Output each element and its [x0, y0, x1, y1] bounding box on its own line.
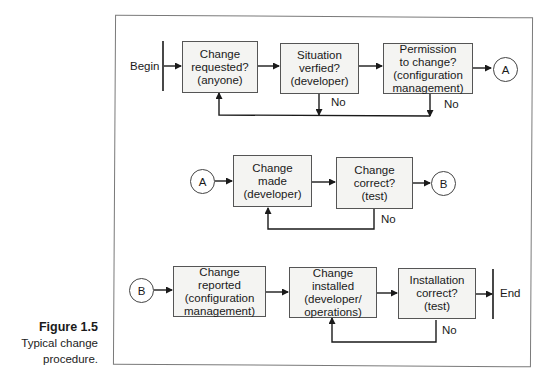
step-permission-to-change: Permission to change? (configuration man… [383, 43, 473, 94]
step-change-reported: Change reported (configuration managemen… [173, 266, 266, 317]
connector-label: A [199, 176, 207, 188]
caption-line-2: procedure. [21, 351, 98, 367]
step-installation-correct: Installation correct? (test) [398, 268, 476, 319]
connector-a-out: A [493, 57, 518, 82]
step-change-correct: Change correct? (test) [336, 157, 413, 209]
figure-number: Figure 1.5 [21, 320, 98, 335]
step-change-installed: Change installed (developer/ operations) [289, 267, 377, 318]
step-label: Change installed (developer/ operations) [304, 267, 362, 319]
caption-line-1: Typical change [21, 335, 98, 351]
no-label: No [381, 213, 396, 226]
step-label: Installation correct? (test) [410, 274, 465, 313]
step-change-requested: Change requested? (anyone) [182, 41, 258, 93]
connector-label: B [138, 285, 146, 297]
begin-label: Begin [130, 60, 159, 73]
no-label: No [444, 98, 459, 111]
step-label: Change requested? (anyone) [191, 48, 249, 87]
connector-a-in: A [190, 169, 215, 194]
figure-caption: Figure 1.5 Typical change procedure. [21, 320, 98, 367]
step-label: Situation verfied? (developer) [290, 49, 348, 88]
end-label: End [500, 287, 520, 300]
connector-label: A [502, 64, 510, 76]
connector-label: B [440, 178, 448, 190]
step-label: Change reported (configuration managemen… [184, 266, 255, 318]
no-label: No [331, 96, 346, 109]
step-label: Change correct? (test) [354, 164, 396, 203]
step-label: Change made (developer) [243, 162, 301, 201]
connector-b-out: B [431, 171, 456, 196]
connector-b-in: B [129, 278, 154, 303]
no-label: No [442, 324, 457, 337]
change-procedure-figure: Begin Change requested? (anyone) Situati… [0, 0, 559, 389]
step-label: Permission to change? (configuration man… [393, 43, 464, 95]
step-situation-verified: Situation verfied? (developer) [280, 43, 359, 94]
step-change-made: Change made (developer) [233, 155, 312, 207]
